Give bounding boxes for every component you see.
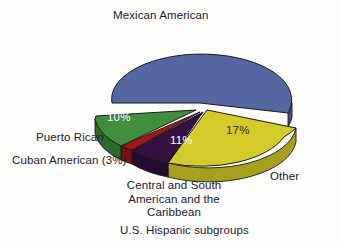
slice-label-cuban-american: Cuban American (3%) <box>12 154 126 168</box>
slice-label-other: Other <box>270 170 299 184</box>
pie-chart-figure: 59% 10% 11% 17% Mexican American Puerto … <box>0 0 339 243</box>
slice-label-central-south-american: Central and South American and the Carib… <box>118 179 230 220</box>
slice-value-central: 11% <box>170 134 193 146</box>
chart-caption: U.S. Hispanic subgroups <box>120 224 249 238</box>
slice-label-mexican: Mexican American <box>113 9 209 23</box>
slice-label-puerto-rican: Puerto Rican <box>36 131 104 145</box>
slice-value-puerto-rican: 10% <box>107 111 131 123</box>
slice-top-mexican <box>112 54 292 113</box>
slice-value-mexican: 59% <box>196 33 220 45</box>
slice-value-other: 17% <box>226 124 250 136</box>
